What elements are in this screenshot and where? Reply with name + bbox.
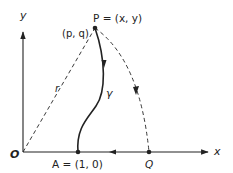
x-axis-label: x bbox=[213, 145, 221, 158]
radius-label: r bbox=[55, 83, 60, 94]
point-p bbox=[93, 26, 98, 31]
point-q bbox=[147, 150, 152, 155]
y-axis: y bbox=[19, 9, 27, 152]
point-a-label: A = (1, 0) bbox=[52, 158, 103, 170]
y-axis-label: y bbox=[19, 9, 27, 22]
radius-line: r bbox=[23, 28, 95, 152]
gamma-curve: γ bbox=[78, 28, 113, 152]
point-a bbox=[76, 150, 81, 155]
gamma-label: γ bbox=[106, 87, 113, 100]
point-p-label: P = (x, y) bbox=[93, 12, 142, 24]
arc-p-to-q bbox=[95, 28, 149, 152]
point-q-label: Q bbox=[145, 158, 153, 170]
x-axis: x bbox=[23, 145, 221, 158]
pq-label: (p, q) bbox=[62, 28, 89, 39]
origin-label: O bbox=[10, 148, 19, 161]
q-to-a-arrow-icon bbox=[109, 150, 116, 155]
path-diagram: y x r γ O A = (1, 0) Q P = (x, y) (p, q) bbox=[0, 0, 233, 173]
